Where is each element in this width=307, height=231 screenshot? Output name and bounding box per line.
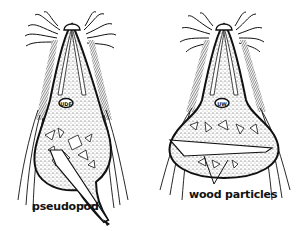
label-wood-particles: wood particles [189, 188, 277, 201]
label-pseudopod: pseudopod [32, 200, 99, 213]
svg-text:UW: UW [217, 101, 227, 107]
left-body [34, 24, 111, 222]
left-organism: UDF [18, 12, 128, 226]
left-cap [64, 24, 80, 30]
right-organism: UW [160, 12, 290, 200]
right-cap [216, 24, 232, 30]
svg-text:UDF: UDF [60, 101, 72, 107]
